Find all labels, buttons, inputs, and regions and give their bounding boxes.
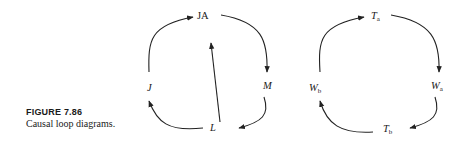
edge-j-to-ja xyxy=(149,17,193,72)
node-tb: Tb xyxy=(383,123,393,136)
causal-loop-diagrams: JA M L J Ta Wa Tb Wb xyxy=(0,0,464,149)
edge-ja-to-m xyxy=(221,15,267,72)
edge-wa-to-tb xyxy=(410,97,437,128)
edge-m-to-l xyxy=(239,97,266,128)
edge-ta-to-wa xyxy=(391,15,439,72)
node-l: L xyxy=(209,122,216,133)
node-ta: Ta xyxy=(371,10,381,23)
node-wa: Wa xyxy=(431,80,444,93)
node-j: J xyxy=(147,82,153,93)
right-loop-diagram: Ta Wa Tb Wb xyxy=(309,10,444,136)
node-wb: Wb xyxy=(309,82,322,95)
edge-l-to-ja xyxy=(211,43,220,122)
edge-tb-to-wb xyxy=(320,101,373,132)
edge-l-to-j xyxy=(149,101,203,129)
node-m: M xyxy=(262,80,273,91)
node-ja: JA xyxy=(197,10,209,21)
left-loop-diagram: JA M L J xyxy=(147,10,273,133)
edge-wb-to-ta xyxy=(319,17,364,72)
